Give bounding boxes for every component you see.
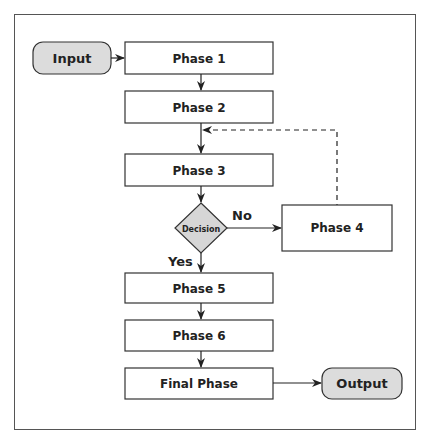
phase5-label: Phase 5 bbox=[172, 282, 225, 296]
phase3-label: Phase 3 bbox=[172, 164, 225, 178]
output-label: Output bbox=[336, 376, 387, 391]
output-terminal: Output bbox=[322, 368, 402, 399]
phase2-label: Phase 2 bbox=[172, 101, 225, 115]
input-terminal: Input bbox=[33, 42, 111, 74]
input-label: Input bbox=[53, 51, 92, 66]
phase3-box: Phase 3 bbox=[125, 154, 273, 186]
final-phase-label: Final Phase bbox=[160, 377, 238, 391]
phase4-label: Phase 4 bbox=[310, 221, 363, 235]
phase6-box: Phase 6 bbox=[125, 320, 273, 351]
decision-label: Decision bbox=[182, 225, 221, 234]
phase1-label: Phase 1 bbox=[172, 52, 225, 66]
phase1-box: Phase 1 bbox=[125, 42, 273, 74]
phase5-box: Phase 5 bbox=[125, 273, 273, 303]
phase6-label: Phase 6 bbox=[172, 329, 225, 343]
phase4-box: Phase 4 bbox=[282, 205, 392, 251]
edge-label-yes: Yes bbox=[167, 254, 193, 269]
final-phase-box: Final Phase bbox=[125, 368, 273, 399]
phase2-box: Phase 2 bbox=[125, 91, 273, 123]
flowchart-canvas: Input Phase 1 Phase 2 Phase 3 Decision N… bbox=[0, 0, 429, 445]
decision-diamond: Decision bbox=[175, 203, 227, 253]
edge-label-no: No bbox=[232, 208, 252, 223]
